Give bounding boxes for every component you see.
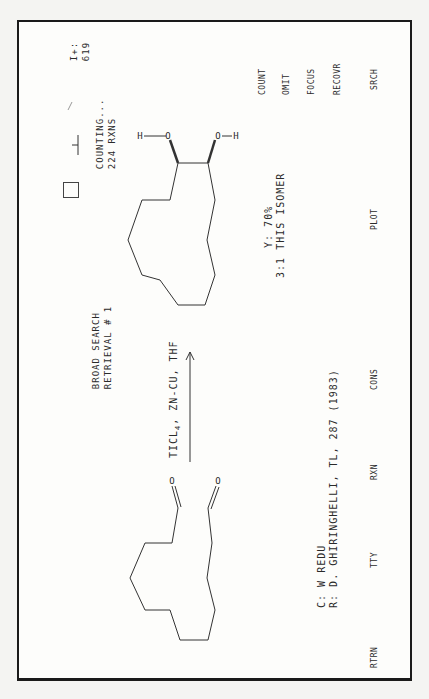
menu-recovr-label[interactable]: RECOVR xyxy=(333,63,342,95)
reactant-ring xyxy=(130,508,215,640)
menu-rtrn-label[interactable]: RTRN xyxy=(370,647,379,668)
structure-drawing: O H O H O O xyxy=(0,0,429,699)
menu-srch[interactable]: SRCH xyxy=(370,69,379,90)
menu-rtrn[interactable]: RTRN xyxy=(370,647,379,668)
menu-count-label[interactable]: COUNT xyxy=(258,68,267,95)
menu-plot-label[interactable]: PLOT xyxy=(370,209,379,230)
product-h2: H xyxy=(233,131,238,141)
isomer-ratio-text: 3:1 THIS ISOMER xyxy=(275,173,286,278)
menu-tty-label[interactable]: TTY xyxy=(370,552,379,568)
reagents-label: TICL4, ZN-CU, THF xyxy=(168,340,184,458)
menu-rxn-label[interactable]: RXN xyxy=(370,464,379,480)
menu-cons-label[interactable]: CONS xyxy=(370,369,379,390)
menu-tty[interactable]: TTY xyxy=(370,552,379,568)
reactant-o2: O xyxy=(215,476,220,486)
product-ring xyxy=(128,163,215,305)
menu-focus-label[interactable]: FOCUS xyxy=(307,68,316,95)
product-h1: H xyxy=(137,131,142,141)
isomer-ratio: 3:1 THIS ISOMER xyxy=(264,173,286,292)
menu-omit[interactable]: OMIT xyxy=(282,74,291,95)
menu-cons[interactable]: CONS xyxy=(370,369,379,390)
menu-omit-label[interactable]: OMIT xyxy=(282,74,291,95)
reactant-o1: O xyxy=(169,476,174,486)
citation-reference-text: R: D. GHIRINGHELLI, TL, 287 (1983) xyxy=(328,369,339,608)
product-o1: O xyxy=(165,131,170,141)
reagent-ticl: TICL xyxy=(168,430,179,458)
menu-rxn[interactable]: RXN xyxy=(370,464,379,480)
menu-plot[interactable]: PLOT xyxy=(370,209,379,230)
reagent-subscript: 4 xyxy=(174,425,182,430)
menu-focus[interactable]: FOCUS xyxy=(307,68,316,95)
menu-recovr[interactable]: RECOVR xyxy=(333,63,342,95)
reagent-rest: , ZN-CU, THF xyxy=(168,340,179,424)
product-o2: O xyxy=(215,131,220,141)
menu-srch-label[interactable]: SRCH xyxy=(370,69,379,90)
citation-reference: R: D. GHIRINGHELLI, TL, 287 (1983) xyxy=(317,369,339,622)
menu-count[interactable]: COUNT xyxy=(258,68,267,95)
